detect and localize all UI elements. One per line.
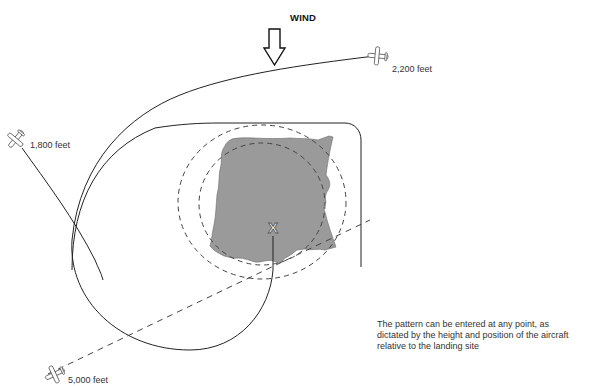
caption-line: relative to the landing site: [377, 341, 593, 352]
svg-text:X: X: [268, 219, 278, 236]
landing-point-marker: X: [268, 219, 278, 236]
caption: The pattern can be entered at any point,…: [377, 319, 593, 352]
caption-line: The pattern can be entered at any point,…: [377, 319, 593, 330]
approach-path-1800: [22, 148, 103, 280]
altitude-label-5000: 5,000 feet: [68, 375, 108, 385]
wind-label: WIND: [290, 12, 316, 23]
airplane-icon: [42, 362, 68, 386]
airplane-icon: [3, 126, 30, 153]
caption-line: dictated by the height and position of t…: [377, 330, 593, 341]
altitude-label-2200: 2,200 feet: [392, 64, 432, 74]
airplane-icon: [367, 46, 388, 66]
wind-arrow-icon: [264, 29, 285, 65]
altitude-label-1800: 1,800 feet: [30, 140, 70, 150]
